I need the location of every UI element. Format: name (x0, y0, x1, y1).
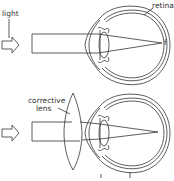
top-eye-group (2, 6, 170, 85)
corrective-lens (64, 93, 82, 170)
eye-diagram (0, 0, 174, 181)
eyeball-outer (85, 6, 170, 85)
focus-label: f (164, 39, 167, 47)
eye-lens (99, 32, 109, 58)
lens-leader-line (58, 108, 70, 114)
sclera-line (102, 10, 167, 81)
light-arrow-icon-2 (2, 125, 19, 141)
light-beam (32, 34, 98, 53)
light-beam-2 (32, 122, 80, 141)
lens-label-line2: lens (36, 105, 51, 113)
ray-lower (98, 43, 162, 53)
retina-line (105, 13, 164, 78)
retina-label: retina (152, 2, 174, 10)
light-label: light (2, 10, 19, 18)
light-arrow-icon (2, 37, 19, 53)
